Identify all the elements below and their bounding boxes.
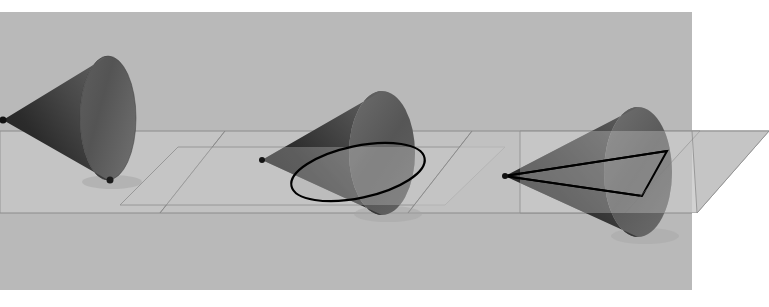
cone-2-apex-point xyxy=(259,157,265,163)
figure-canvas xyxy=(0,0,769,307)
cone-1-rim-accent-bottom xyxy=(107,177,114,184)
panel-right-bottom-mask xyxy=(692,213,769,307)
panel-bottom-mask xyxy=(0,290,769,307)
conic-sections-figure: Conic sections formed by a plane interse… xyxy=(0,0,769,307)
cone-3-apex-point xyxy=(502,173,508,179)
panel-top-mask xyxy=(0,0,769,12)
